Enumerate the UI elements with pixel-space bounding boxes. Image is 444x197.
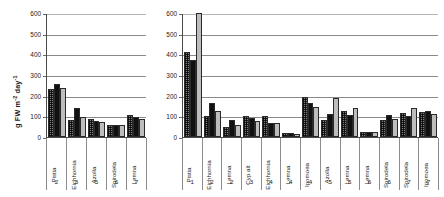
bar-group bbox=[320, 14, 340, 137]
y-tick-label: 600 bbox=[19, 11, 41, 17]
bar-group bbox=[379, 14, 399, 137]
category-number: 6 bbox=[106, 177, 127, 190]
category-labels-right: PistiaEichhorniaLemnaCyp altEichhorniaLe… bbox=[182, 138, 438, 177]
bar bbox=[119, 125, 125, 137]
category-cell: Pistia bbox=[182, 138, 203, 177]
bar-group bbox=[399, 14, 419, 137]
y-tick-label: 0 bbox=[155, 135, 177, 141]
category-number: 1 bbox=[182, 177, 203, 190]
category-number: 2 bbox=[221, 177, 242, 190]
bar-groups-left bbox=[47, 14, 146, 137]
category-cell: Spirodela bbox=[379, 138, 400, 177]
bar bbox=[313, 107, 319, 137]
category-cell: Eichhornia bbox=[202, 138, 223, 177]
bar bbox=[139, 119, 145, 137]
bar-group bbox=[67, 14, 87, 137]
category-cell: Lemna bbox=[126, 138, 147, 177]
bar-group bbox=[47, 14, 67, 137]
y-tick-label: 400 bbox=[19, 52, 41, 58]
category-number: 2 bbox=[46, 177, 67, 190]
category-cell: Pistia bbox=[46, 138, 67, 177]
category-cell: Lemna bbox=[340, 138, 361, 177]
category-number: 5 bbox=[86, 177, 107, 190]
y-tick-label: 100 bbox=[155, 114, 177, 120]
bar-group bbox=[261, 14, 281, 137]
category-number: 2 bbox=[202, 177, 223, 190]
figure-two-bar-charts: g FW m-2 day-1 6005004003002001000 Pisti… bbox=[0, 0, 444, 197]
category-number: 3 bbox=[241, 177, 262, 190]
category-number: 7 bbox=[126, 177, 147, 190]
category-numbers-right: 1223444556677 bbox=[182, 177, 438, 190]
plot-area-right bbox=[182, 14, 438, 138]
category-cell: Azolla bbox=[320, 138, 341, 177]
category-cell: Ipomoea bbox=[300, 138, 321, 177]
chart-panel-left: g FW m-2 day-1 6005004003002001000 Pisti… bbox=[0, 0, 155, 197]
bar-group bbox=[106, 14, 126, 137]
bar bbox=[372, 132, 378, 137]
bar bbox=[392, 119, 398, 137]
y-tick-label: 200 bbox=[155, 94, 177, 100]
category-number: 6 bbox=[379, 177, 400, 190]
y-tick-label: 300 bbox=[155, 73, 177, 79]
category-number: 5 bbox=[320, 177, 341, 190]
category-number: 7 bbox=[418, 177, 439, 190]
bar bbox=[353, 108, 359, 137]
bar bbox=[333, 98, 339, 137]
y-tick-label: 200 bbox=[19, 94, 41, 100]
bar-group bbox=[126, 14, 146, 137]
bar bbox=[431, 114, 437, 137]
bar bbox=[294, 134, 300, 138]
bar-group bbox=[183, 14, 203, 137]
bar-group bbox=[301, 14, 321, 137]
category-number: 7 bbox=[399, 177, 420, 190]
category-cell: Spirodela bbox=[106, 138, 127, 177]
bar-group bbox=[359, 14, 379, 137]
bar-group bbox=[87, 14, 107, 137]
category-cell: Eichhornia bbox=[66, 138, 87, 177]
bar bbox=[274, 123, 280, 137]
category-number: 4 bbox=[300, 177, 321, 190]
category-numbers-left: 23567 bbox=[46, 177, 146, 190]
bar bbox=[411, 108, 417, 137]
category-cell: Azolla bbox=[86, 138, 107, 177]
bar bbox=[80, 117, 86, 137]
category-number: 3 bbox=[66, 177, 87, 190]
y-tick-label: 100 bbox=[19, 114, 41, 120]
category-cell: Lemna bbox=[280, 138, 301, 177]
category-labels-left: PistiaEichhorniaAzollaSpirodelaLemna bbox=[46, 138, 146, 177]
category-number: 4 bbox=[261, 177, 282, 190]
category-cell: Lemna bbox=[359, 138, 380, 177]
bar bbox=[196, 13, 202, 137]
y-tick-label: 500 bbox=[19, 32, 41, 38]
bar bbox=[255, 121, 261, 137]
category-cell: Lemna bbox=[221, 138, 242, 177]
category-cell: Eichhornia bbox=[261, 138, 282, 177]
bar-group bbox=[242, 14, 262, 137]
category-cell: Ipomoea bbox=[418, 138, 439, 177]
category-number: 6 bbox=[359, 177, 380, 190]
bar bbox=[235, 125, 241, 137]
chart-panel-right: 6005004003002001000 PistiaEichhorniaLemn… bbox=[155, 0, 444, 197]
bar-groups-right bbox=[183, 14, 438, 137]
bar bbox=[60, 88, 66, 137]
category-cell: Cyp alt bbox=[241, 138, 262, 177]
y-tick-label: 600 bbox=[155, 11, 177, 17]
bar-group bbox=[281, 14, 301, 137]
bar bbox=[215, 111, 221, 137]
category-number: 5 bbox=[340, 177, 361, 190]
y-tick-label: 500 bbox=[155, 32, 177, 38]
plot-area-left bbox=[46, 14, 146, 138]
bar-group bbox=[340, 14, 360, 137]
bar-group bbox=[203, 14, 223, 137]
bar-group bbox=[222, 14, 242, 137]
category-cell: Spirodela bbox=[399, 138, 420, 177]
y-tick-label: 400 bbox=[155, 52, 177, 58]
bar bbox=[99, 122, 105, 137]
bar-group bbox=[418, 14, 438, 137]
y-tick-label: 0 bbox=[19, 135, 41, 141]
category-number: 4 bbox=[280, 177, 301, 190]
y-tick-label: 300 bbox=[19, 73, 41, 79]
